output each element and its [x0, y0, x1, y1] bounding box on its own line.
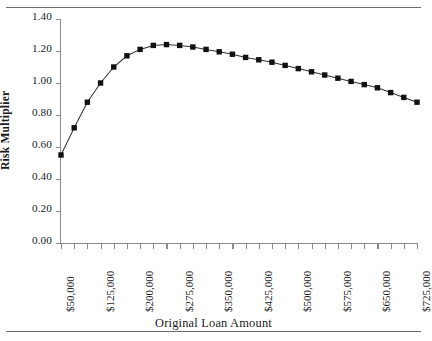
data-point: [243, 55, 248, 60]
data-point: [111, 64, 116, 69]
data-point: [388, 90, 393, 95]
data-point: [230, 52, 235, 57]
data-point: [282, 63, 287, 68]
data-point: [348, 79, 353, 84]
data-point: [414, 100, 419, 105]
data-point: [190, 44, 195, 49]
data-point: [164, 42, 169, 47]
data-point: [124, 53, 129, 58]
data-point: [85, 100, 90, 105]
data-point: [58, 152, 63, 157]
data-point: [401, 95, 406, 100]
data-point: [322, 72, 327, 77]
data-point: [98, 80, 103, 85]
data-point: [71, 125, 76, 130]
data-point: [335, 76, 340, 81]
risk-multiplier-line: [61, 45, 417, 155]
data-point: [362, 82, 367, 87]
data-point: [296, 66, 301, 71]
data-point: [256, 57, 261, 62]
risk-multiplier-markers: [58, 42, 419, 158]
data-point: [203, 47, 208, 52]
data-point: [375, 85, 380, 90]
data-point: [217, 49, 222, 54]
data-point: [177, 43, 182, 48]
data-point: [269, 60, 274, 65]
data-point: [309, 69, 314, 74]
data-point: [151, 43, 156, 48]
data-point: [137, 47, 142, 52]
